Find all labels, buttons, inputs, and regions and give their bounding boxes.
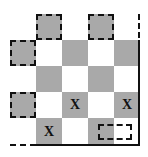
marked-dark-cell: X [36,118,62,145]
dashed-dark-cell [10,92,36,118]
x-mark: X [44,124,54,140]
dark-cell [88,66,114,92]
marked-dark-cell: X [114,92,140,118]
dark-cell [62,40,88,66]
right-border-line [138,40,140,146]
dashed-dark-cell [36,14,62,40]
light-cell [36,40,62,66]
light-cell [36,92,62,118]
dark-cell [114,40,140,66]
dashed-dark-cell [88,14,114,40]
x-mark: X [122,97,132,113]
x-mark: X [70,97,80,113]
light-cell [88,92,114,118]
light-cell [88,40,114,66]
marked-dark-cell: X [62,92,88,118]
light-cell [62,118,88,145]
light-cell [62,66,88,92]
dashed-dark-cell [10,40,36,66]
dark-cell [36,66,62,92]
light-cell [114,66,140,92]
dashed-selection-rect [98,124,132,140]
bottom-dashed-extension [10,144,36,146]
right-dashed-extension [138,14,140,38]
bottom-border-line [36,144,140,146]
